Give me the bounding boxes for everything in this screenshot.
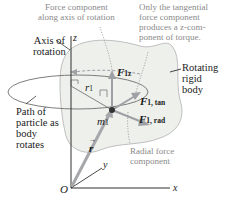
force-rad-subscript: 1, rad [146, 116, 165, 125]
callout-axial-line1: Force component [38, 2, 115, 12]
callout-axial-line2: along axis of rotation [38, 12, 115, 22]
callout-tangential-line4: ponent of torque. [139, 32, 208, 42]
callout-radial-text: Radial force component [130, 146, 174, 166]
axis-of-rotation-label: Axis of rotation [33, 36, 66, 57]
force-tan-subscript: 1, tan [147, 98, 165, 107]
callout-tangential-line2: force component [139, 12, 208, 22]
particle-m1 [109, 107, 115, 113]
path-label-line3: body [16, 128, 59, 139]
torque-diagram: Force component along axis of rotation O… [0, 0, 231, 202]
body-label-line2: rigid [182, 73, 218, 84]
callout-radial-line2: component [130, 156, 174, 166]
callout-tangential-line1: Only the tangential [139, 2, 208, 12]
body-label-line1: Rotating [182, 62, 218, 73]
z-axis-label: z [73, 32, 77, 43]
axis-label-line1: Axis of [33, 36, 66, 47]
path-label-line4: rotates [16, 139, 59, 150]
y-axis-label: y [103, 159, 107, 170]
mass-subscript: 1 [105, 118, 109, 127]
origin-label: O [60, 183, 68, 195]
path-label: Path of particle as body rotates [16, 106, 59, 150]
force-rad-label: F1, rad [139, 113, 165, 125]
callout-tangential-text: Only the tangential force component prod… [139, 2, 208, 42]
path-label-line1: Path of [16, 106, 59, 117]
x-axis-label: x [173, 182, 177, 193]
vector-arrow-icon: → [88, 135, 96, 144]
radius-subscript: 1 [89, 84, 93, 93]
rotating-body-label: Rotating rigid body [182, 62, 218, 95]
axis-label-line2: rotation [33, 47, 66, 58]
mass-symbol: m [97, 115, 105, 127]
callout-tangential-line3: produces a z-com- [139, 22, 208, 32]
path-label-line2: particle as [16, 117, 59, 128]
path-label-pointer [26, 96, 36, 104]
force-z-subscript: 1z [124, 69, 131, 78]
callout-radial-line1: Radial force [130, 146, 174, 156]
mass-m1-label: m1 [97, 115, 109, 127]
body-label-line3: body [182, 84, 218, 95]
force-tan-label: F1, tan [140, 95, 165, 107]
callout-axial-text: Force component along axis of rotation [38, 2, 115, 22]
force-z-label: F1z [117, 66, 131, 78]
radius-r1-label: r1 [85, 81, 93, 93]
